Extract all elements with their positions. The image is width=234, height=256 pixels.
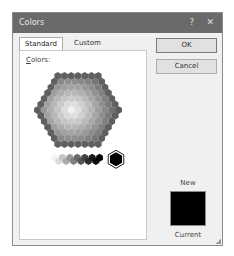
dialog-title: Colors [19,18,44,27]
color-preview-swatch [170,191,206,226]
tab-custom[interactable]: Custom [69,37,106,49]
resize-grip-icon[interactable] [216,239,221,244]
close-button[interactable]: ✕ [206,17,214,27]
title-bar[interactable]: Colors ? ✕ [13,13,222,33]
colors-dialog: Colors ? ✕ Standard Custom Colors: OK Ca… [12,12,223,246]
new-color-label: New [170,179,206,187]
current-color-label: Current [165,231,211,239]
tab-standard[interactable]: Standard [19,37,63,50]
help-button[interactable]: ? [190,18,194,27]
color-hexagon-palette[interactable] [20,51,148,211]
standard-tab-panel: Colors: [19,50,147,240]
ok-button[interactable]: OK [156,38,217,53]
cancel-button[interactable]: Cancel [156,59,217,74]
